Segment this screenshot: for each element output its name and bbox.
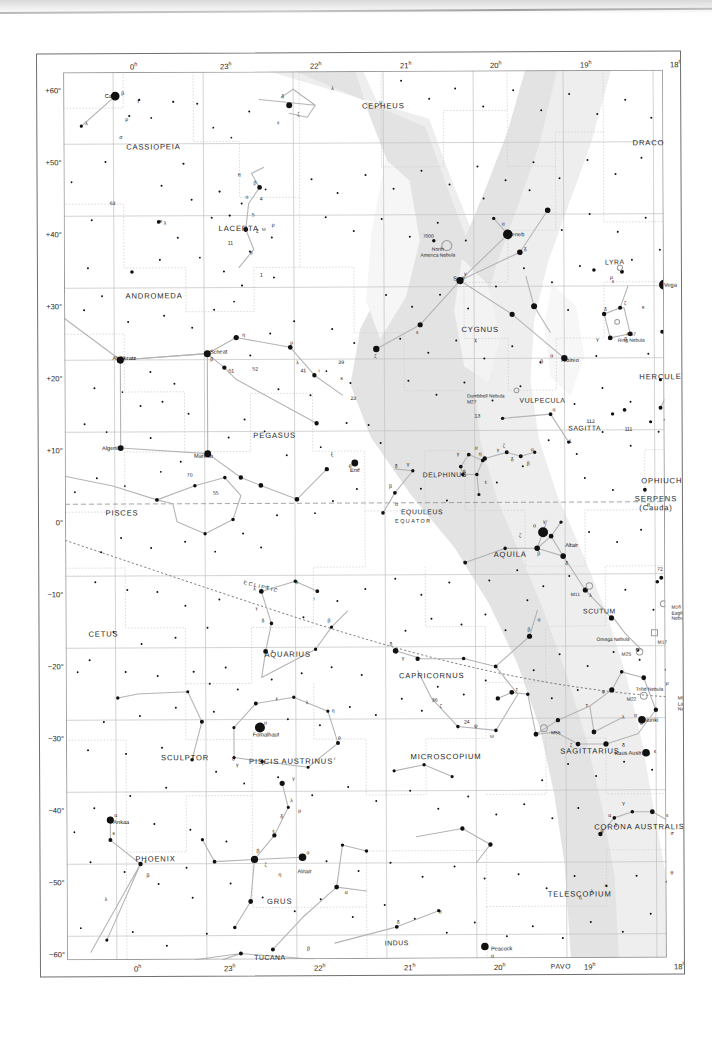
bayer-designation-label: 4 [260,195,263,201]
bayer-designation-label: β [540,358,543,364]
bayer-designation-label: ζ [297,111,299,117]
bayer-designation-label: α [395,501,398,507]
bayer-designation-label: β [210,356,213,362]
dec-tick-label: −10° [41,590,63,599]
bayer-designation-label: δ [622,742,625,748]
constellation-label: PHOENIX [135,854,175,863]
constellation-label: AQUILA [494,550,527,559]
bayer-designation-label: ε [654,748,656,754]
bayer-designation-label: θ [349,463,352,469]
bayer-designation-label: α [122,354,125,360]
constellation-label: CASSIOPEIA [126,142,181,151]
ra-tick-label: 19h [584,961,595,972]
bayer-designation-label: 11 [228,240,233,246]
bayer-designation-label: β [262,759,265,765]
bayer-designation-label: α [475,444,478,450]
deep-sky-label: M8LagoonNebula [678,696,684,713]
ra-tick-label: 0h [130,61,137,72]
deep-sky-label: Omega Nebula [597,637,630,643]
bayer-designation-label: α [491,952,494,958]
bayer-designation-label: 55 [213,490,219,496]
bayer-designation-label: 36 [432,697,438,703]
sky-map-canvas [63,70,667,961]
star-name-label: Nunki [644,717,658,723]
ra-tick-label: 20h [494,961,505,972]
bayer-designation-label: β [327,617,330,623]
bayer-designation-label: 51 [228,368,234,374]
star-name-label: Deneb [508,231,525,237]
deep-sky-label: Trifid Nebula [636,687,664,693]
bayer-designation-label: α [553,406,556,412]
deep-sky-label: M57Ring Nebula [618,332,645,343]
ra-tick-label: 22h [314,962,325,973]
constellation-label: DRACO [633,138,665,147]
bayer-designation-label: μ [290,339,293,345]
bayer-designation-label: η [510,310,513,316]
deep-sky-label: M16EagleNebula [671,605,684,622]
bayer-designation-label: β [527,460,530,466]
constellation-label: SCUTUM [583,607,616,614]
bayer-designation-label: β [527,626,530,632]
bayer-designation-label: θ [338,735,341,741]
bayer-designation-label: β [307,945,310,951]
bayer-designation-label: λ [296,359,299,365]
bayer-designation-label: β [121,90,124,96]
constellation-label: CETUS [89,630,119,639]
bayer-designation-label: β [147,872,150,878]
bayer-designation-label: 39 [338,359,344,365]
bayer-designation-label: σ [670,830,673,836]
dec-tick-label: +20° [40,374,62,383]
deep-sky-label: 7000 [423,234,434,240]
bayer-designation-label: κ [160,218,163,224]
constellation-label: VULPECULA [520,397,566,404]
equator-label: EQUATOR [395,518,432,524]
constellation-label: CYGNUS [461,325,499,334]
bayer-designation-label: σ [640,720,643,726]
bayer-designation-label: β [463,469,466,475]
bayer-designation-label: β [254,179,257,185]
ra-tick-label: 21h [400,60,411,71]
deep-sky-label: M55 [551,730,561,736]
deep-sky-label: NorthAmerica Nebula [420,247,455,258]
bayer-designation-label: ω [490,732,494,738]
deep-sky-label: M25 [622,652,632,658]
bayer-designation-label: ζ [265,861,267,867]
bayer-designation-label: δ [524,246,527,252]
bayer-designation-label: λ [591,888,594,894]
bayer-designation-label: ε [272,827,274,833]
constellation-label: ANDROMEDA [126,291,183,300]
bayer-designation-label: δ [281,93,284,99]
bayer-designation-label: γ [497,446,500,452]
bayer-designation-label: δ [397,919,400,925]
bayer-designation-label: α [345,889,348,895]
constellation-label: LYRA [605,258,625,265]
bayer-designation-label: γ [543,518,546,524]
star-name-label: Peacock [491,945,512,951]
constellation-label: SCULPTOR [161,753,209,762]
bayer-designation-label: ζ [374,353,376,359]
constellation-label: OPHIUCHUS [641,476,684,485]
bayer-designation-label: 23 [350,395,356,401]
deep-sky-label: M22 [627,697,637,703]
constellation-label: SAGITTA [568,424,601,431]
bayer-designation-label: τ [137,98,139,104]
bayer-designation-label: α [608,812,611,818]
bayer-designation-label: ψ [474,722,478,728]
bayer-designation-label: η [279,871,282,877]
constellation-label: SERPENS(Cauda) [635,495,677,512]
constellation-label: INDUS [385,939,409,946]
star-name-label: Albireo [561,357,578,363]
bayer-designation-label: 1 [569,438,572,444]
bayer-designation-label: 2 [256,227,259,233]
bayer-designation-label: 5 [252,211,255,217]
bayer-designation-label: ε [272,647,274,653]
bayer-designation-label: ι [313,595,314,601]
star-name-label: Ankaa [113,819,129,825]
bayer-designation-label: α [265,583,268,589]
bayer-designation-label: ρ [125,116,128,122]
deep-sky-label: M17 [658,640,668,646]
ra-tick-label: 21h [404,962,415,973]
constellation-label: DELPHINUS [423,471,467,478]
bayer-designation-label: γ [407,461,410,467]
bayer-designation-label: 24 [464,719,470,725]
